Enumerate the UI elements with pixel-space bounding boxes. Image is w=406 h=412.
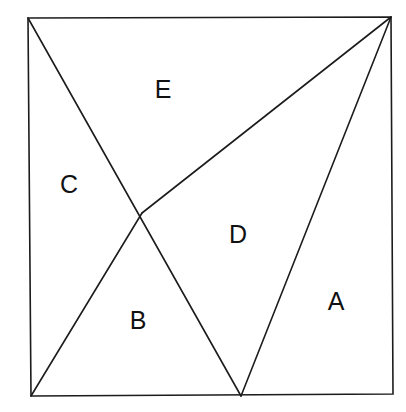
segment-topleft-to-bottom-vertex — [28, 18, 241, 396]
outer-square — [28, 17, 393, 396]
segment-intersection-to-bottomleft — [31, 213, 142, 396]
region-label-b: B — [130, 306, 147, 334]
region-label-e: E — [155, 75, 172, 103]
region-label-c: C — [60, 170, 78, 198]
segment-topright-to-bottomleft — [142, 17, 391, 213]
region-label-a: A — [328, 287, 345, 315]
region-label-d: D — [229, 220, 247, 248]
segment-topright-to-bottom-vertex — [241, 17, 391, 396]
square-partition-diagram: E C D B A — [0, 0, 406, 412]
